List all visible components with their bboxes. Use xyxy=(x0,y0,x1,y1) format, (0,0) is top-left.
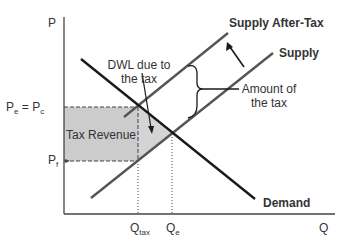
supply-label: Supply xyxy=(279,46,319,60)
tax-revenue-label: Tax Revenue xyxy=(66,128,136,142)
qtax-label: Qtax xyxy=(130,221,150,237)
amount-of-tax-line2: the tax xyxy=(251,96,287,110)
dwl-triangle xyxy=(138,107,172,161)
x-axis-label: Q xyxy=(319,221,328,235)
supply-after-tax-label: Supply After-Tax xyxy=(229,16,324,30)
demand-label: Demand xyxy=(263,196,310,210)
pe-pc-label: Pe = Pc xyxy=(6,100,44,116)
dwl-label-line2: the tax xyxy=(121,72,157,86)
y-axis-label: P xyxy=(48,16,56,30)
tax-incidence-diagram: P Q Supply After-Tax Supply Demand DWL d… xyxy=(0,0,349,250)
pf-label: Pf xyxy=(48,153,59,169)
dwl-label-line1: DWL due to xyxy=(108,58,171,72)
amount-of-tax-line1: Amount of xyxy=(242,82,297,96)
shift-arrow-line xyxy=(230,47,244,67)
qe-label: Qe xyxy=(166,221,180,237)
